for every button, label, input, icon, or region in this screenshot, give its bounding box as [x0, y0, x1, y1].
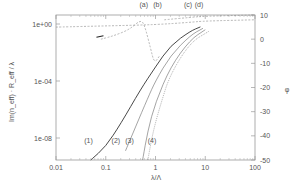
y-right-tick-label: -40: [260, 132, 270, 139]
y-axis-left-label: Im(n_eff) · R_eff / λ: [8, 61, 16, 122]
curve-label: (d): [195, 1, 204, 9]
y-right-tick-label: -30: [260, 108, 270, 115]
chart: 0.010.11101001e+001e-041e-08100-10-20-30…: [0, 0, 296, 183]
curve-4: [148, 31, 209, 160]
y-right-tick-label: -10: [260, 60, 270, 67]
curve-phase-b: [56, 20, 255, 27]
y-right-tick-label: 10: [260, 12, 268, 19]
curve-phase-c: [164, 15, 255, 20]
x-tick-label: 0.1: [101, 164, 111, 171]
y-axis-right-label: φ: [285, 86, 290, 94]
y-right-tick-label: -20: [260, 84, 270, 91]
y-left-tick-label: 1e-08: [34, 135, 52, 142]
curve-1: [91, 27, 201, 160]
curve-label: (3): [125, 137, 134, 145]
curve-label: (a): [139, 1, 148, 9]
arrow-marker-icon: [96, 36, 103, 37]
x-tick-label: 1: [154, 164, 158, 171]
curve-label: (b): [153, 1, 162, 9]
x-tick-label: 100: [249, 164, 261, 171]
tick-labels: 0.010.11101001e+001e-041e-08100-10-20-30…: [32, 12, 270, 172]
curve-phase-a: [101, 21, 159, 60]
x-tick-label: 0.01: [49, 164, 63, 171]
y-left-tick-label: 1e-04: [34, 78, 52, 85]
curve-2: [126, 28, 204, 151]
curve-label: (2): [112, 137, 121, 145]
curve-annotations: (a)(b)(c)(d)(1)(2)(3)(4): [84, 1, 203, 145]
curve-label: (c): [184, 1, 192, 9]
curve-label: (4): [148, 137, 157, 145]
curve-label: (1): [84, 137, 93, 145]
y-right-tick-label: -50: [260, 157, 270, 164]
x-tick-label: 10: [201, 164, 209, 171]
x-axis-label: λ/Λ: [151, 174, 161, 181]
y-right-tick-label: 0: [260, 36, 264, 43]
chart-canvas: 0.010.11101001e+001e-041e-08100-10-20-30…: [0, 0, 296, 183]
y-left-tick-label: 1e+00: [32, 21, 52, 28]
